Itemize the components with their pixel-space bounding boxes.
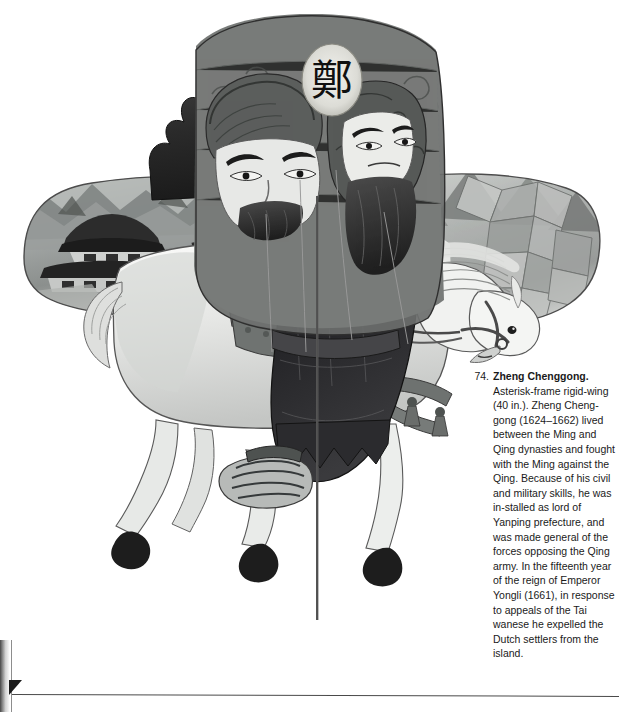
caption-title: Zheng Chenggong. <box>493 370 589 382</box>
caption-body: 74.Zheng Chenggong. Asterisk-frame rigid… <box>472 369 616 661</box>
seal-cartouche: 鄭 <box>302 44 362 116</box>
book-page: 鄭 74.Zheng Chenggong. Asterisk-frame rig… <box>0 0 619 712</box>
page-corner-mark <box>9 680 22 695</box>
page-bottom-rule <box>12 694 619 697</box>
figure-caption: 74.Zheng Chenggong. Asterisk-frame rigid… <box>472 369 616 661</box>
caption-number: 74. <box>472 369 489 384</box>
seal-character: 鄭 <box>311 56 353 105</box>
caption-text: Asterisk-frame rigid-wing (40 in.). Zhen… <box>493 385 615 660</box>
